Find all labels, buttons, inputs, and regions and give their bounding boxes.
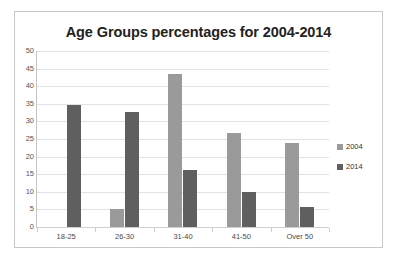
bar-group [212, 51, 270, 227]
y-axis-tick-label: 10 [15, 188, 34, 196]
y-axis-tick-label: 25 [15, 135, 34, 143]
x-axis-tick-mark [271, 228, 272, 232]
bar-2014-31-40[interactable] [183, 170, 197, 227]
y-axis-tick-label: 45 [15, 65, 34, 73]
y-axis-tick-label: 15 [15, 170, 34, 178]
legend-item-2004[interactable]: 2004 [337, 142, 389, 151]
bar-group [154, 51, 212, 227]
chart-frame: Age Groups percentages for 2004-2014 504… [14, 11, 383, 248]
y-axis-tick-labels: 50454035302520151050 [15, 51, 34, 227]
plot-area [37, 51, 329, 227]
bar-2004-31-40[interactable] [168, 74, 182, 227]
bar-2004-41-50[interactable] [227, 133, 241, 227]
chart-title: Age Groups percentages for 2004-2014 [15, 24, 382, 40]
y-axis-tick-label: 35 [15, 100, 34, 108]
chart-legend: 20042014 [337, 142, 389, 182]
legend-swatch-icon [337, 164, 343, 170]
x-axis-tick-mark [95, 228, 96, 232]
bars-layer [37, 51, 329, 227]
x-axis-tick-mark [154, 228, 155, 232]
bar-2014-41-50[interactable] [242, 192, 256, 227]
legend-label: 2014 [346, 163, 363, 171]
bar-2014-over-50[interactable] [300, 207, 314, 227]
x-axis-tick-label: 41-50 [212, 233, 270, 241]
x-axis-tick-mark [37, 228, 38, 232]
bar-group [95, 51, 153, 227]
x-axis-tick-label: Over 50 [271, 233, 329, 241]
y-axis-tick-label: 50 [15, 47, 34, 55]
y-axis-tick-label: 0 [15, 223, 34, 231]
bar-group [37, 51, 95, 227]
legend-swatch-icon [337, 144, 343, 150]
legend-label: 2004 [346, 143, 363, 151]
grid-line [37, 227, 329, 228]
legend-item-2014[interactable]: 2014 [337, 162, 389, 171]
x-axis-tick-mark [212, 228, 213, 232]
y-axis-tick-label: 5 [15, 206, 34, 214]
x-axis-tick-labels: 18-2526-3031-4041-50Over 50 [37, 233, 329, 247]
bar-2004-over-50[interactable] [285, 143, 299, 227]
x-axis-tick-label: 18-25 [37, 233, 95, 241]
y-axis-tick-label: 40 [15, 82, 34, 90]
bar-group [271, 51, 329, 227]
x-axis-tick-mark [329, 228, 330, 232]
y-axis-tick-label: 20 [15, 153, 34, 161]
bar-2004-26-30[interactable] [110, 209, 124, 227]
bar-2014-26-30[interactable] [125, 112, 139, 227]
x-axis-tick-label: 26-30 [95, 233, 153, 241]
y-axis-tick-label: 30 [15, 118, 34, 126]
x-axis-tick-label: 31-40 [154, 233, 212, 241]
bar-2014-18-25[interactable] [67, 105, 81, 227]
